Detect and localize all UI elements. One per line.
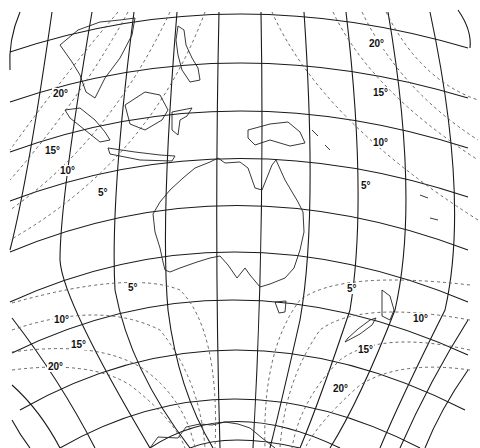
new-zealand-north xyxy=(382,290,394,320)
australia-coast xyxy=(153,158,304,287)
isoline-label-ne-5: 5° xyxy=(360,180,372,191)
graticule-parallels xyxy=(10,14,468,448)
isoline-label-se-20: 20° xyxy=(332,383,349,394)
isoline-label-nw-20: 20° xyxy=(52,88,69,99)
indochina xyxy=(60,18,135,98)
map-canvas xyxy=(0,0,480,448)
isoline-label-sw-20: 20° xyxy=(47,361,64,372)
isoline-label-ne-10: 10° xyxy=(372,137,389,148)
new-zealand-south xyxy=(345,318,376,342)
vanuatu-fiji xyxy=(420,195,438,220)
antarctica-coast xyxy=(150,422,275,448)
isoline-label-se-10: 10° xyxy=(412,313,429,324)
new-guinea xyxy=(248,122,305,146)
isoline-label-se-5: 5° xyxy=(346,283,358,294)
isoline-label-ne-20: 20° xyxy=(368,38,385,49)
graticule-meridians xyxy=(10,10,471,448)
isoline-label-se-15: 15° xyxy=(357,344,374,355)
isoline-label-sw-15: 15° xyxy=(70,339,87,350)
isoline-label-nw-15: 15° xyxy=(44,145,61,156)
isoline-label-nw-5: 5° xyxy=(97,187,109,198)
isoline-label-ne-15: 15° xyxy=(372,87,389,98)
isoline-label-nw-10: 10° xyxy=(59,165,76,176)
solomon-islands xyxy=(312,130,330,150)
coastlines xyxy=(60,18,438,448)
isoline-label-sw-10: 10° xyxy=(53,314,70,325)
isoline-label-sw-5: 5° xyxy=(127,282,139,293)
philippines xyxy=(176,26,200,82)
sulawesi xyxy=(172,108,192,135)
borneo xyxy=(125,92,168,130)
